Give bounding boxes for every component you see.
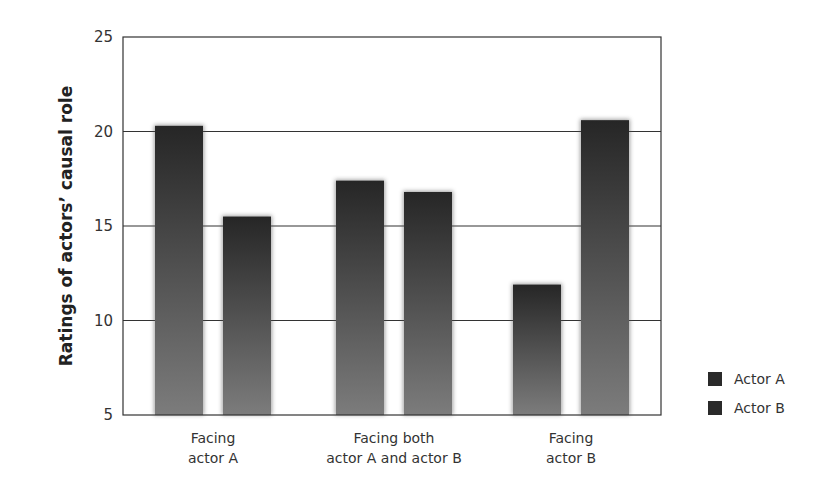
x-category-label: actor B: [546, 450, 596, 466]
x-category-label: Facing: [191, 430, 236, 446]
y-axis-ticks: 510152025: [94, 28, 113, 424]
bar-actor-b-2: [581, 120, 629, 415]
x-category-label: Facing: [549, 430, 594, 446]
y-axis-title: Ratings of actors’ causal role: [56, 86, 76, 366]
y-tick-label: 10: [94, 312, 113, 330]
y-tick-label: 20: [94, 123, 113, 141]
bar-actor-b-0: [223, 217, 271, 415]
legend-label-actor-b: Actor B: [734, 400, 785, 416]
y-tick-label: 15: [94, 217, 113, 235]
x-axis-categories: Facingactor AFacing bothactor A and acto…: [188, 430, 596, 466]
bar-actor-b-1: [404, 192, 452, 415]
legend: Actor A Actor B: [708, 364, 785, 422]
legend-label-actor-a: Actor A: [734, 371, 785, 387]
legend-swatch-actor-a: [708, 372, 722, 386]
x-category-label: Facing both: [354, 430, 435, 446]
bar-actor-a-0: [155, 126, 203, 415]
legend-swatch-actor-b: [708, 401, 722, 415]
legend-item-actor-a: Actor A: [708, 364, 785, 393]
bars: [154, 119, 630, 415]
y-tick-label: 25: [94, 28, 113, 46]
legend-item-actor-b: Actor B: [708, 393, 785, 422]
x-category-label: actor A: [188, 450, 239, 466]
y-tick-label: 5: [103, 406, 113, 424]
bar-actor-a-2: [513, 285, 561, 415]
bar-actor-a-1: [336, 181, 384, 415]
x-category-label: actor A and actor B: [326, 450, 462, 466]
